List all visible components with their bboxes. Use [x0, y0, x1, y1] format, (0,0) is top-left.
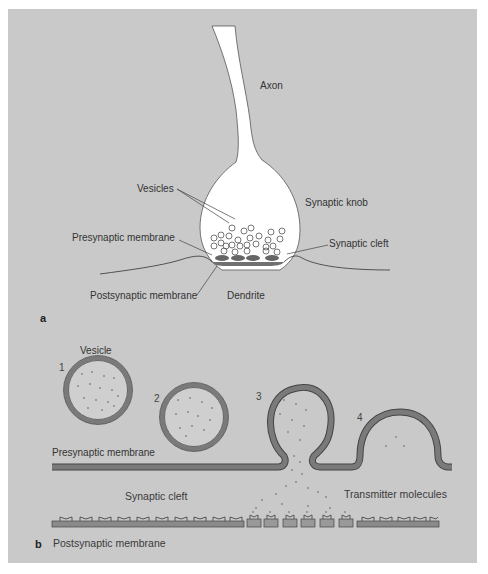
stage-4-number: 4 — [357, 412, 363, 423]
postsynaptic-membrane-b — [52, 519, 439, 527]
stage-3-number: 3 — [256, 391, 262, 402]
dendrite-outline-left — [100, 256, 212, 274]
synaptic-cleft-label-b: Synaptic cleft — [125, 490, 187, 502]
panel-letter-a: a — [40, 312, 46, 324]
presynaptic-membrane-label-a: Presynaptic membrane — [72, 232, 175, 243]
dendrite-label: Dendrite — [227, 290, 265, 301]
presynaptic-membrane-label-b: Presynaptic membrane — [52, 447, 155, 458]
postsynaptic-density — [212, 262, 284, 266]
axon-and-knob — [200, 26, 300, 270]
stage-1-number: 1 — [59, 362, 65, 373]
vesicles-label: Vesicles — [137, 183, 174, 194]
dendrite-outline-right — [284, 256, 390, 270]
vesicle-label: Vesicle — [80, 345, 112, 356]
synaptic-knob-label: Synaptic knob — [305, 197, 368, 208]
vesicle-2 — [160, 383, 229, 452]
synaptic-cleft-label-a: Synaptic cleft — [329, 238, 388, 249]
vesicle-1 — [64, 356, 133, 425]
bound-transmitters — [252, 511, 346, 513]
postsynaptic-membrane-label-b: Postsynaptic membrane — [53, 537, 166, 549]
stage-2-number: 2 — [154, 393, 160, 404]
transmitter-molecules-label: Transmitter molecules — [344, 488, 447, 500]
panel-letter-b: b — [35, 538, 42, 550]
axon-label: Axon — [260, 80, 283, 91]
postsynaptic-membrane-label-a: Postsynaptic membrane — [90, 290, 197, 301]
